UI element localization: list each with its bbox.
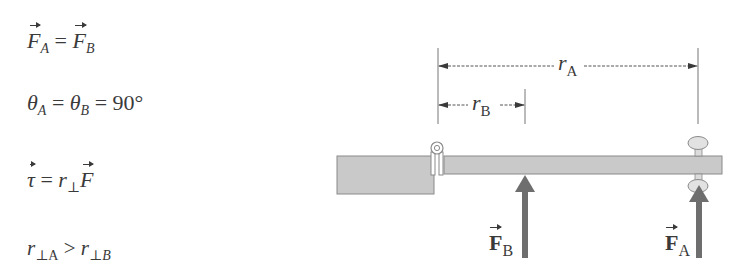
door-torque-diagram xyxy=(0,0,736,272)
hinge-icon xyxy=(431,142,443,175)
door-frame xyxy=(337,156,434,194)
vector-arrow-icon: F xyxy=(489,232,502,254)
label-force-b: FB xyxy=(489,232,513,254)
door-beam xyxy=(444,156,722,174)
force-arrow-b-icon xyxy=(515,175,535,258)
force-arrow-a-icon xyxy=(689,185,709,258)
label-r-a: rA xyxy=(554,52,581,74)
label-force-a: FA xyxy=(665,232,690,254)
vector-arrow-icon: F xyxy=(665,232,678,254)
label-r-b: rB xyxy=(468,92,495,114)
